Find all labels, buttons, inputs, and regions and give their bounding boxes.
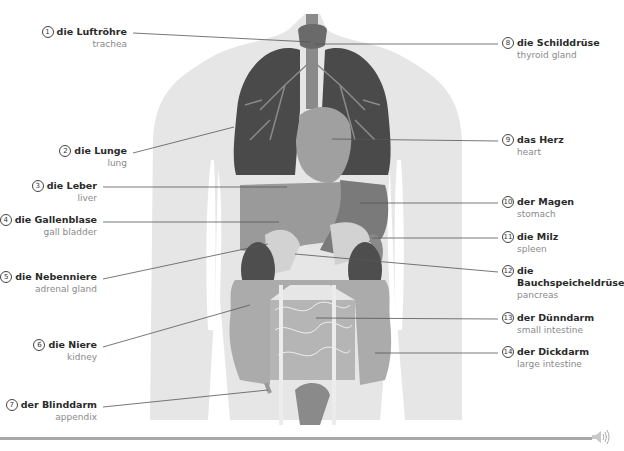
label-small-intestine: 13der Dünndarm small intestine <box>502 312 594 336</box>
speaker-icon[interactable] <box>591 429 611 445</box>
label-pancreas: 12die Bauchspeicheldrüse pancreas <box>502 265 624 301</box>
label-spleen: 11die Milz spleen <box>502 231 558 255</box>
label-adrenal-gland: 5die Nebenniere adrenal gland <box>0 271 97 295</box>
label-kidney: 6die Niere kidney <box>33 339 97 363</box>
label-gall-bladder: 4die Gallenblase gall bladder <box>0 214 97 238</box>
label-thyroid-gland: 8die Schilddrüse thyroid gland <box>502 37 600 61</box>
label-lung: 2die Lunge lung <box>59 145 127 169</box>
label-heart: 9das Herz heart <box>502 134 564 158</box>
label-appendix: 7der Blinddarm appendix <box>6 399 97 423</box>
label-stomach: 10der Magen stomach <box>502 196 574 220</box>
label-large-intestine: 14der Dickdarm large intestine <box>502 346 589 370</box>
label-trachea: 1die Luftröhre trachea <box>42 26 127 50</box>
label-liver: 3die Leber liver <box>32 180 97 204</box>
footer-divider <box>0 437 592 440</box>
